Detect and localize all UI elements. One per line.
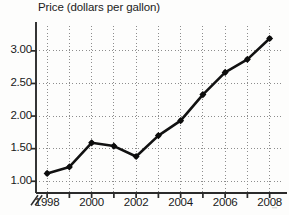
scan-artifact: "" [272, 206, 277, 213]
price-line-chart: Price (dollars per gallon) 1.001.502.002… [0, 0, 289, 215]
axis-lines [36, 22, 287, 193]
plot-area [0, 0, 289, 215]
data-point-marker [44, 170, 51, 177]
axis-break-icon [31, 195, 42, 205]
